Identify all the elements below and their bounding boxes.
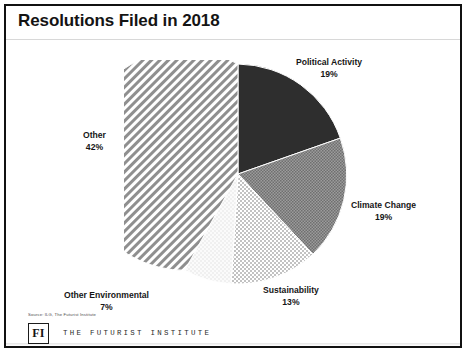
futurist-institute-logo: FI <box>28 323 49 344</box>
page-title: Resolutions Filed in 2018 <box>18 11 220 31</box>
pie-label-other-environmental: Other Environmental 7% <box>64 290 149 313</box>
bottom-edge-shadow <box>6 343 460 346</box>
pie-label-other: Other 42% <box>83 130 106 153</box>
pie-chart <box>124 60 352 288</box>
futurist-institute-name: THE FUTURIST INSTITUTE <box>63 329 211 337</box>
source-note: Source: ILG, The Futurist Institute <box>28 312 96 317</box>
pie-label-climate-change: Climate Change 19% <box>351 200 416 223</box>
pie-label-sustainability-name: Sustainability <box>263 285 319 295</box>
title-band: Resolutions Filed in 2018 <box>6 6 460 40</box>
pie-label-other-environmental-name: Other Environmental <box>64 290 149 300</box>
pie-label-political-activity-name: Political Activity <box>296 57 362 67</box>
pie-label-sustainability-value: 13% <box>263 297 319 309</box>
pie-chart-svg <box>124 60 352 288</box>
pie-label-political-activity: Political Activity 19% <box>296 57 362 80</box>
slide-frame: Resolutions Filed in 2018 <box>4 4 462 348</box>
footer-branding: FI THE FUTURIST INSTITUTE <box>28 321 211 345</box>
pie-label-political-activity-value: 19% <box>296 69 362 81</box>
chart-canvas: Political Activity 19% Climate Change 19… <box>6 40 460 348</box>
pie-label-other-value: 42% <box>83 142 106 154</box>
pie-label-climate-change-value: 19% <box>351 212 416 224</box>
pie-label-sustainability: Sustainability 13% <box>263 285 319 308</box>
pie-label-other-name: Other <box>83 130 106 140</box>
pie-label-climate-change-name: Climate Change <box>351 200 416 210</box>
